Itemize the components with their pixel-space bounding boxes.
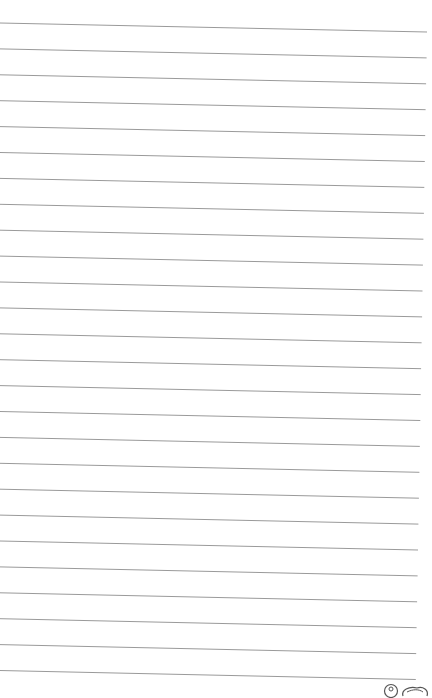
ruled-line [0, 541, 418, 550]
ruled-line [0, 412, 420, 421]
ruled-line [0, 360, 421, 369]
ruled-line [0, 671, 416, 680]
ruled-line [0, 437, 420, 446]
ruled-line [0, 127, 425, 136]
ruled-line [0, 334, 422, 343]
ruled-line [0, 386, 421, 395]
ruled-line [0, 101, 426, 110]
ruled-line [0, 178, 424, 187]
ruled-line [0, 645, 416, 654]
ruled-line [0, 75, 426, 84]
ruled-line [0, 593, 417, 602]
ruled-line [0, 619, 417, 628]
circle-logo-icon [385, 685, 398, 698]
ruled-line [0, 153, 425, 162]
ruled-line [0, 204, 424, 213]
ruled-line [0, 463, 419, 472]
footer-logo [383, 682, 432, 698]
ruled-line [0, 256, 423, 265]
ruled-line [0, 515, 418, 524]
cloud-logo-icon [403, 687, 428, 696]
ruled-line [0, 230, 423, 239]
ruled-line [0, 489, 419, 498]
ruled-line [0, 308, 422, 317]
ruled-line [0, 49, 427, 58]
ruled-line [0, 282, 423, 291]
ruled-line [0, 567, 418, 576]
ruled-line [0, 23, 427, 32]
